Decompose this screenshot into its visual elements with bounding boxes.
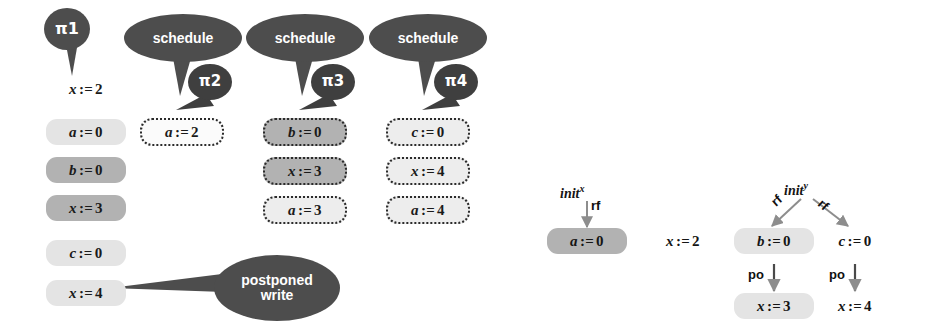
init-y-base: init: [784, 183, 803, 198]
node-a-assign-0-op: :=: [578, 233, 596, 250]
node-x-assign-3: x:=3: [734, 293, 814, 319]
node-x-assign-3-val: 3: [783, 298, 791, 315]
init-x-sup: x: [579, 183, 584, 194]
edge-label-rf-x: rf: [591, 198, 600, 213]
node-x-assign-3-var: x: [757, 298, 765, 315]
edge-label-po-left: po: [748, 267, 764, 282]
node-c-assign-0-val: 0: [864, 233, 872, 250]
node-x-assign-2-var: x: [666, 233, 674, 250]
node-c-assign-0-op: :=: [846, 233, 864, 250]
node-x-assign-4-var: x: [838, 298, 846, 315]
edge-label-po-right: po: [829, 267, 845, 282]
node-c-assign-0: c:=0: [815, 228, 895, 254]
node-x-assign-2-op: :=: [674, 233, 692, 250]
init-y-sup: y: [803, 180, 807, 191]
edge-label-po-right-text: po: [829, 267, 845, 282]
init-x-label: initx: [560, 183, 585, 202]
edge-label-po-left-text: po: [748, 267, 764, 282]
figure-canvas: π1 schedule π2 schedule π3 schedule π4 p…: [0, 0, 935, 332]
node-x-assign-4-op: :=: [846, 298, 864, 315]
node-a-assign-0: a:=0: [547, 228, 627, 254]
init-y-label: inity: [784, 180, 808, 199]
node-b-assign-0-val: 0: [783, 233, 791, 250]
init-x-base: init: [560, 186, 579, 201]
node-a-assign-0-val: 0: [596, 233, 604, 250]
node-x-assign-2-val: 2: [692, 233, 700, 250]
node-x-assign-3-op: :=: [765, 298, 783, 315]
node-c-assign-0-var: c: [839, 233, 846, 250]
node-x-assign-4: x:=4: [815, 293, 895, 319]
node-a-assign-0-var: a: [570, 233, 578, 250]
node-b-assign-0-op: :=: [765, 233, 783, 250]
node-b-assign-0: b:=0: [734, 228, 814, 254]
node-b-assign-0-var: b: [757, 233, 765, 250]
edge-label-rf-x-text: rf: [591, 198, 600, 213]
graph-edges-layer: [0, 0, 935, 332]
node-x-assign-2: x:=2: [643, 228, 723, 254]
node-x-assign-4-val: 4: [864, 298, 872, 315]
